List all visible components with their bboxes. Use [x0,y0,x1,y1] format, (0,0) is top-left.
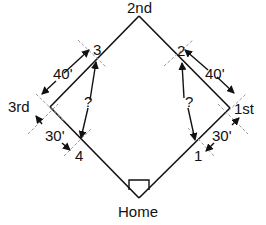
distance-label-right-30: 30' [212,128,232,143]
point-label-4: 4 [75,148,83,163]
diamond-figure [0,0,266,225]
distance-label-left-40: 40' [53,66,73,81]
base-label-second: 2nd [127,0,152,15]
diamond-outline [50,16,230,198]
unknown-label-left: ? [84,94,92,109]
point-label-1: 1 [194,148,202,163]
home-plate-icon [129,180,149,190]
base-label-third: 3rd [8,99,30,114]
base-label-home: Home [118,204,158,219]
distance-label-left-30: 30' [45,128,65,143]
unknown-label-right: ? [185,94,193,109]
point-label-2: 2 [177,43,185,58]
base-label-first: 1st [234,101,254,116]
point-label-3: 3 [93,42,101,57]
baseball-diagram: 2nd 3rd 1st Home 3 2 4 1 40' 40' 30' 30'… [0,0,266,225]
distance-label-right-40: 40' [205,66,225,81]
